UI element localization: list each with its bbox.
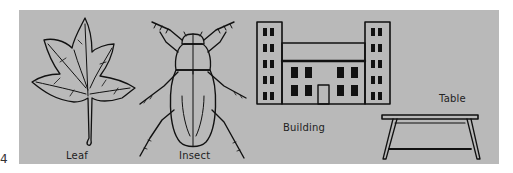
building-icon	[256, 21, 392, 105]
leaf-label: Leaf	[66, 150, 88, 161]
leaf-icon	[30, 18, 140, 148]
insect-label: Insect	[179, 150, 210, 161]
table-icon	[381, 113, 481, 163]
table-label: Table	[439, 93, 466, 104]
beetle-icon	[134, 16, 254, 161]
figure-number: 4	[0, 152, 8, 166]
building-label: Building	[283, 122, 325, 133]
